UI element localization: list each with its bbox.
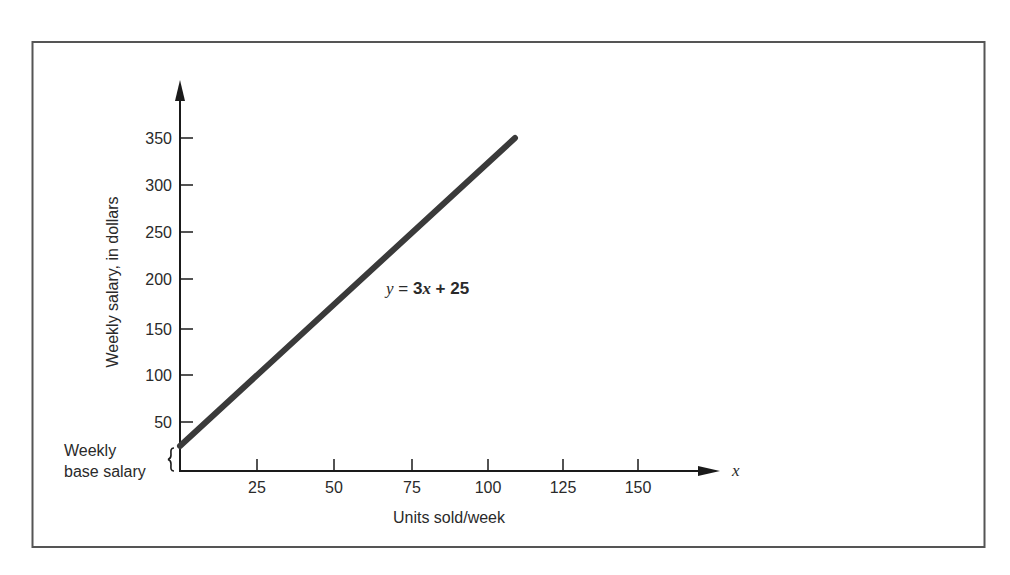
y-tick-label: 100 bbox=[145, 367, 172, 384]
y-tick-label: 200 bbox=[145, 271, 172, 288]
x-axis-symbol: x bbox=[731, 461, 740, 480]
y-tick-label: 50 bbox=[154, 414, 172, 431]
x-tick-label: 100 bbox=[475, 479, 502, 496]
y-axis-title: Weekly salary, in dollars bbox=[104, 196, 121, 367]
x-tick-label: 150 bbox=[625, 479, 652, 496]
x-tick-label: 125 bbox=[550, 479, 577, 496]
chart-figure: 50 100 150 200 250 300 350 25 50 75 100 … bbox=[0, 0, 1010, 575]
x-tick-label: 75 bbox=[403, 479, 421, 496]
y-tick-label: 250 bbox=[145, 224, 172, 241]
x-axis-title: Units sold/week bbox=[393, 509, 506, 526]
x-tick-label: 25 bbox=[248, 479, 266, 496]
equation-label: y = 3x + 25 bbox=[384, 279, 469, 298]
base-salary-label-line1: Weekly bbox=[64, 442, 116, 459]
y-tick-label: 300 bbox=[145, 177, 172, 194]
base-salary-label-line2: base salary bbox=[64, 463, 146, 480]
y-tick-label: 350 bbox=[145, 130, 172, 147]
y-tick-label: 150 bbox=[145, 321, 172, 338]
x-tick-label: 50 bbox=[325, 479, 343, 496]
